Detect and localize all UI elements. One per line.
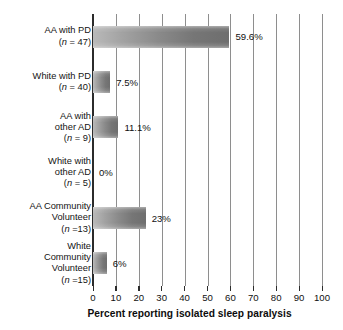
x-axis-tick-label: 50 — [202, 292, 213, 303]
bar-fill — [93, 252, 107, 274]
bar-fill — [93, 116, 118, 138]
x-axis-tick-label: 100 — [314, 292, 330, 303]
x-axis-tick-label: 30 — [156, 292, 167, 303]
bar-fill — [93, 207, 146, 229]
category-label-line: AA Community — [30, 201, 91, 212]
bar-value-label: 7.5% — [116, 77, 138, 88]
x-axis-tick — [184, 286, 185, 291]
gridline — [208, 14, 209, 286]
x-axis-tick — [230, 286, 231, 291]
gridline — [276, 14, 277, 286]
category-sample-size: (n = 47) — [44, 37, 91, 48]
bar — [93, 252, 107, 274]
category-label-line: Volunteer — [44, 263, 91, 274]
category-sample-size: (n =15) — [44, 275, 91, 286]
x-axis-tick — [161, 286, 162, 291]
bar — [93, 116, 118, 138]
category-sample-size: (n = 9) — [55, 133, 91, 144]
category-label-line: Community — [44, 252, 91, 263]
bar-chart: 0102030405060708090100 59.6%7.5%11.1%0%2… — [0, 0, 343, 330]
gridline — [322, 14, 323, 286]
n-symbol: n — [64, 275, 69, 285]
category-label-line: White with PD — [33, 71, 91, 82]
category-label: AA CommunityVolunteer(n =13) — [30, 201, 91, 235]
bar-value-label: 59.6% — [235, 31, 262, 42]
bar-value-label: 6% — [113, 258, 127, 269]
x-axis-tick — [299, 286, 300, 291]
n-symbol: n — [67, 178, 72, 188]
gridline — [253, 14, 254, 286]
category-label-line: AA with — [55, 111, 91, 122]
n-symbol: n — [62, 37, 67, 47]
gridline — [139, 14, 140, 286]
x-axis-tick-label: 60 — [225, 292, 236, 303]
bar-fill — [93, 26, 229, 48]
category-label: AA with PD(n = 47) — [44, 25, 91, 47]
category-label-line: other AD — [55, 122, 91, 133]
n-symbol: n — [62, 82, 67, 92]
bar-value-label: 0% — [99, 167, 113, 178]
x-axis-tick — [322, 286, 323, 291]
category-label-line: Volunteer — [30, 212, 91, 223]
category-label-line: White with — [48, 156, 91, 167]
x-axis-tick — [138, 286, 139, 291]
x-axis-tick — [276, 286, 277, 291]
gridline — [299, 14, 300, 286]
gridline — [162, 14, 163, 286]
x-axis-tick-label: 90 — [294, 292, 305, 303]
x-axis-tick — [253, 286, 254, 291]
x-axis-tick-label: 40 — [179, 292, 190, 303]
x-axis-title: Percent reporting isolated sleep paralys… — [0, 308, 343, 319]
category-label: White withother AD(n = 5) — [48, 156, 91, 190]
x-axis-tick-label: 20 — [133, 292, 144, 303]
gridline — [185, 14, 186, 286]
x-axis-tick — [115, 286, 116, 291]
gridline — [230, 14, 231, 286]
bar-value-label: 11.1% — [124, 122, 151, 133]
category-sample-size: (n = 40) — [33, 82, 91, 93]
gridline — [116, 14, 117, 286]
category-label: White with PD(n = 40) — [33, 71, 91, 93]
category-label-line: other AD — [48, 167, 91, 178]
bar-fill — [93, 71, 110, 93]
category-sample-size: (n =13) — [30, 224, 91, 235]
x-axis-tick — [207, 286, 208, 291]
x-axis-tick-label: 0 — [90, 292, 95, 303]
category-label: WhiteCommunityVolunteer(n =15) — [44, 241, 91, 286]
category-label-line: AA with PD — [44, 25, 91, 36]
category-label-line: White — [44, 241, 91, 252]
bar — [93, 71, 110, 93]
bar — [93, 207, 146, 229]
x-axis-tick-label: 70 — [248, 292, 259, 303]
category-label: AA withother AD(n = 9) — [55, 111, 91, 145]
n-symbol: n — [67, 133, 72, 143]
x-axis-tick-label: 10 — [111, 292, 122, 303]
x-axis-tick — [93, 286, 94, 291]
category-sample-size: (n = 5) — [48, 178, 91, 189]
n-symbol: n — [64, 224, 69, 234]
y-axis-line — [92, 14, 94, 286]
x-axis-tick-label: 80 — [271, 292, 282, 303]
bar-value-label: 23% — [152, 213, 171, 224]
bar — [93, 26, 229, 48]
